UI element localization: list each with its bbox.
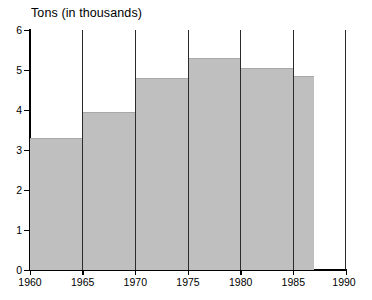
gridline-1980 xyxy=(240,30,241,270)
x-tick-1965 xyxy=(82,270,84,275)
y-tick-label-3: 3 xyxy=(8,145,22,156)
bar-1975 xyxy=(188,58,241,270)
bar-top-edge xyxy=(188,58,241,59)
x-tick-label-1985: 1985 xyxy=(273,277,313,288)
y-tick-label-6: 6 xyxy=(8,25,22,36)
bar-top-edge xyxy=(30,138,83,139)
y-tick-label-5: 5 xyxy=(8,65,22,76)
x-tick-label-1980: 1980 xyxy=(221,277,261,288)
chart-figure: Tons (in thousands) 6 5 4 3 2 1 0 1960 1… xyxy=(0,0,372,300)
gridline-1975 xyxy=(188,30,189,270)
gridline-1965 xyxy=(82,30,83,270)
bar-top-edge xyxy=(83,112,136,113)
gridline-1985 xyxy=(293,30,294,270)
bar-1965 xyxy=(83,112,136,270)
x-tick-1975 xyxy=(188,270,190,275)
bar-top-edge xyxy=(135,78,188,79)
y-tick-label-2: 2 xyxy=(8,185,22,196)
x-tick-label-1975: 1975 xyxy=(168,277,208,288)
plot-area xyxy=(30,30,346,270)
bar-top-edge xyxy=(241,68,294,69)
y-tick-label-0: 0 xyxy=(8,265,22,276)
x-tick-label-1960: 1960 xyxy=(10,277,50,288)
gridline-1990 xyxy=(345,30,346,270)
x-tick-label-1965: 1965 xyxy=(63,277,103,288)
gridline-1970 xyxy=(135,30,136,270)
y-tick-label-4: 4 xyxy=(8,105,22,116)
x-tick-1970 xyxy=(135,270,137,275)
bar-top-edge xyxy=(293,76,314,77)
x-tick-1990 xyxy=(346,270,348,275)
bar-1970 xyxy=(135,78,188,270)
bar-1985 xyxy=(293,76,314,270)
chart-title: Tons (in thousands) xyxy=(31,6,142,20)
x-tick-1980 xyxy=(240,270,242,275)
bar-1960 xyxy=(30,138,83,270)
x-tick-1960 xyxy=(30,270,32,275)
bar-1980 xyxy=(241,68,294,270)
x-tick-label-1970: 1970 xyxy=(115,277,155,288)
x-tick-1985 xyxy=(293,270,295,275)
x-tick-label-1990: 1990 xyxy=(324,277,364,288)
y-tick-label-1: 1 xyxy=(8,225,22,236)
